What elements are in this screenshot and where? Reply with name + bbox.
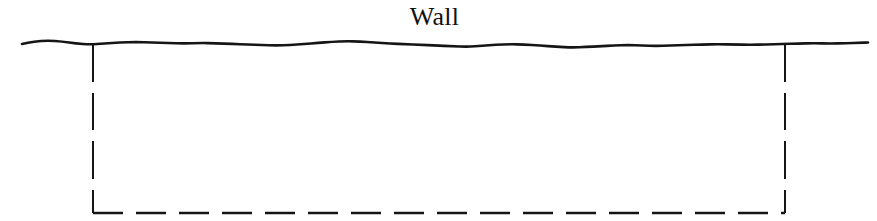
diagram-lines (22, 41, 868, 213)
ground-surface-line (22, 41, 868, 48)
wall-excavation-diagram: Wall (0, 0, 877, 221)
diagram-canvas (0, 0, 877, 221)
